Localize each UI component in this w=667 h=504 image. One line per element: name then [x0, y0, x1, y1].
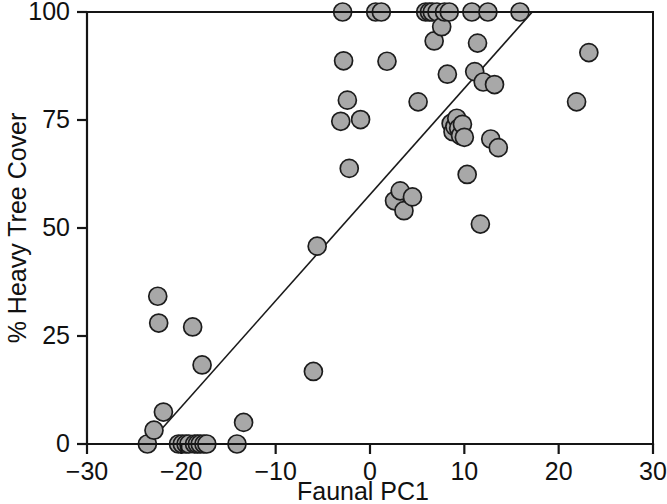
data-point	[568, 93, 586, 111]
data-point	[235, 413, 253, 431]
x-tick-label: −10	[254, 457, 296, 485]
data-point	[403, 188, 421, 206]
data-point	[145, 421, 163, 439]
y-tick-label: 25	[42, 321, 70, 349]
data-point	[471, 215, 489, 233]
y-axis-tick-labels: 0255075100	[28, 0, 70, 457]
data-point	[149, 287, 167, 305]
x-axis-title: Faunal PC1	[297, 477, 429, 504]
data-point-markers	[138, 3, 597, 453]
y-tick-label: 100	[28, 0, 70, 25]
y-axis-title: % Heavy Tree Cover	[3, 113, 31, 344]
data-point	[150, 314, 168, 332]
data-point	[378, 52, 396, 70]
data-point	[193, 356, 211, 374]
data-point	[458, 165, 476, 183]
axis-frame	[87, 12, 653, 444]
x-tick-label: −20	[160, 457, 202, 485]
data-point	[486, 76, 504, 94]
x-tick-label: −30	[66, 457, 108, 485]
data-point	[335, 52, 353, 70]
x-tick-label: 30	[639, 457, 667, 485]
y-tick-label: 0	[56, 429, 70, 457]
data-point	[455, 128, 473, 146]
data-point	[304, 362, 322, 380]
data-point	[332, 112, 350, 130]
data-point	[338, 91, 356, 109]
data-point	[438, 65, 456, 83]
data-point	[352, 111, 370, 129]
data-point	[409, 93, 427, 111]
y-tick-label: 50	[42, 213, 70, 241]
data-point	[308, 237, 326, 255]
chart-canvas: −30−20−100102030 0255075100 Faunal PC1 %…	[0, 0, 667, 504]
axis-ticks	[77, 12, 653, 454]
data-point	[184, 318, 202, 336]
x-tick-label: 10	[450, 457, 478, 485]
data-point	[469, 34, 487, 52]
data-point	[340, 159, 358, 177]
data-point	[489, 139, 507, 157]
data-point	[154, 403, 172, 421]
x-tick-label: 20	[545, 457, 573, 485]
y-tick-label: 75	[42, 105, 70, 133]
data-point	[580, 44, 598, 62]
scatter-plot-figure: −30−20−100102030 0255075100 Faunal PC1 %…	[0, 0, 667, 504]
